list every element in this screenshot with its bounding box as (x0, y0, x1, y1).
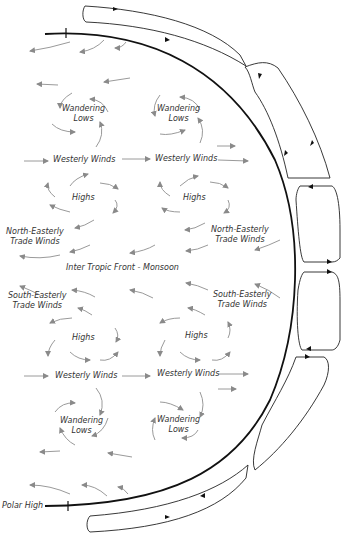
label-se-trade-winds-right: South-Easterly Trade Winds (213, 290, 272, 310)
wind-arrow (30, 485, 70, 494)
ferrel-cell-south (253, 357, 328, 470)
label-ne-trade-winds-left: North-Easterly Trade Winds (6, 227, 64, 247)
wind-arrow (70, 245, 90, 252)
label-ne-trade-winds-right: North-Easterly Trade Winds (211, 225, 269, 245)
label-highs-se: Highs (185, 331, 208, 341)
wind-arrow (82, 485, 107, 496)
label-itcz: Inter Tropic Front - Monsoon (66, 263, 179, 273)
hadley-cell-north (296, 186, 340, 262)
wind-arrow (185, 223, 205, 230)
wind-arrow (108, 453, 132, 457)
wind-arrow (130, 290, 153, 298)
label-se-trade-winds-left: South-Easterly Trade Winds (8, 291, 67, 311)
wind-arrow (80, 40, 104, 52)
wind-arrow (72, 290, 95, 297)
label-highs-nw: Highs (72, 193, 95, 203)
hadley-cell-south (297, 272, 340, 350)
wind-arrow (20, 255, 60, 258)
wind-arrow (186, 283, 208, 290)
wind-arrow (115, 42, 126, 48)
label-wandering-lows-sw: Wandering Lows (60, 416, 103, 436)
wind-arrow (118, 487, 128, 494)
wind-arrow (78, 308, 92, 315)
wind-arrow (186, 245, 208, 251)
wind-arrow (40, 451, 60, 452)
wind-arrow (30, 42, 70, 51)
label-wandering-lows-nw: Wandering Lows (62, 104, 105, 124)
label-highs-ne: Highs (183, 193, 206, 203)
label-wandering-lows-se: Wandering Lows (157, 415, 200, 435)
label-westerly-winds-n1: Westerly Winds (53, 155, 115, 165)
label-wandering-lows-ne: Wandering Lows (157, 104, 200, 124)
wind-arrow (218, 160, 248, 161)
label-highs-sw: Highs (72, 333, 95, 343)
wind-arrow (130, 245, 155, 253)
wind-arrow (188, 308, 205, 315)
label-westerly-winds-n2: Westerly Winds (155, 154, 217, 164)
label-westerly-winds-s2: Westerly Winds (157, 369, 219, 379)
label-polar-high: Polar High (2, 501, 43, 511)
wind-arrow (37, 84, 58, 85)
polar-cell-south (87, 465, 248, 532)
label-westerly-winds-s1: Westerly Winds (55, 371, 117, 381)
wind-arrow (104, 78, 130, 82)
wind-arrow (75, 220, 94, 228)
ferrel-cell-north (245, 63, 330, 178)
